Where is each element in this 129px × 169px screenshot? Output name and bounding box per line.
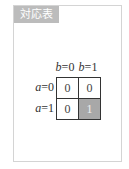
- panel-title: 対応表: [14, 6, 59, 23]
- column-header-b0: b=0: [54, 60, 76, 75]
- table-cell: 0: [57, 99, 79, 120]
- table-cell-highlighted: 1: [79, 99, 101, 120]
- truth-table-grid: 0 0 0 1: [56, 77, 101, 120]
- table-cell: 0: [57, 78, 79, 99]
- table-row: 0 0: [57, 78, 101, 99]
- table-cell: 0: [79, 78, 101, 99]
- column-header-b1: b=1: [77, 60, 99, 75]
- row-header-a1: a=1: [24, 101, 54, 116]
- row-header-a0: a=0: [24, 80, 54, 95]
- table-row: 0 1: [57, 99, 101, 120]
